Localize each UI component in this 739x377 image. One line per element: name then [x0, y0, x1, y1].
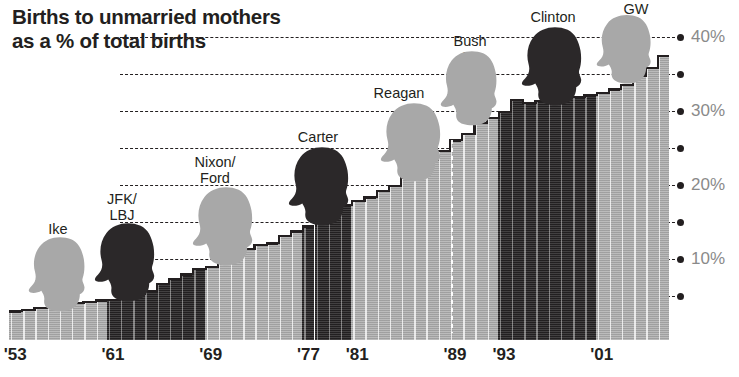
bar-1970 — [217, 261, 229, 340]
bar-2002 — [608, 88, 620, 340]
x-axis-label-1969: '69 — [199, 345, 222, 365]
x-axis-label-1989: '89 — [444, 345, 467, 365]
tick-dot-5 — [677, 293, 684, 300]
bar-separator — [194, 268, 195, 340]
x-axis-label-1977: '77 — [297, 345, 320, 365]
tick-dot-10 — [677, 256, 684, 263]
bar-1985 — [400, 177, 412, 340]
bar-2001 — [596, 92, 608, 340]
bar-separator — [488, 117, 489, 340]
tick-dot-25 — [677, 145, 684, 152]
y-axis-label-20: 20% — [691, 175, 725, 195]
bar-separator — [11, 310, 12, 340]
tick-dot-40 — [677, 34, 684, 41]
bar-separator — [475, 122, 476, 340]
bar-separator — [610, 88, 611, 340]
bar-1979 — [327, 213, 339, 340]
tick-dot-20 — [677, 182, 684, 189]
bar-separator — [207, 266, 208, 340]
bar-separator — [353, 200, 354, 340]
bar-2006 — [657, 55, 669, 340]
bar-separator — [585, 94, 586, 340]
bar-separator — [280, 235, 281, 340]
bar-2005 — [644, 67, 656, 340]
bar-separator — [268, 242, 269, 340]
step-riser — [657, 55, 659, 69]
bar-separator — [634, 75, 635, 340]
bar-1987 — [424, 159, 436, 340]
president-silhouette-icon-carter — [287, 146, 353, 228]
bar-1967 — [180, 273, 192, 340]
step-riser — [168, 278, 170, 285]
bar-2003 — [620, 84, 632, 340]
step-riser — [608, 88, 610, 94]
step-riser — [461, 133, 463, 142]
step-riser — [596, 92, 598, 96]
bar-separator — [365, 196, 366, 340]
president-label-carter: Carter — [298, 130, 338, 146]
president-label-jfk-lbj: JFK/ LBJ — [107, 192, 137, 223]
bar-separator — [292, 230, 293, 340]
bar-separator — [561, 97, 562, 340]
bar-1990 — [461, 133, 473, 340]
president-silhouette-icon-jfk-lbj — [93, 222, 159, 304]
bar-1998 — [559, 97, 571, 340]
bar-separator — [402, 177, 403, 340]
president-silhouette-icon-ike — [27, 236, 89, 314]
president-label-reagan: Reagan — [374, 86, 425, 102]
bar-1977 — [302, 225, 314, 340]
bar-1992 — [486, 117, 498, 340]
president-silhouette-icon-nixon-ford — [191, 186, 257, 268]
step-riser — [290, 230, 292, 236]
bar-separator — [182, 273, 183, 340]
bar-separator — [390, 185, 391, 340]
bar-1968 — [192, 268, 204, 340]
step-riser — [278, 235, 280, 244]
bar-1995 — [522, 102, 534, 340]
step-riser — [510, 99, 512, 113]
chart-container: Births to unmarried mothers as a % of to… — [0, 0, 739, 377]
x-axis-label-1993: '93 — [492, 345, 515, 365]
bar-separator — [97, 299, 98, 340]
step-riser — [192, 268, 194, 275]
bar-separator — [659, 55, 660, 340]
bar-separator — [304, 225, 305, 340]
bar-separator — [414, 167, 415, 340]
y-axis-label-30: 30% — [691, 101, 725, 121]
bar-top-outline — [9, 310, 21, 312]
bar-1961 — [107, 299, 119, 340]
step-riser — [376, 190, 378, 199]
bar-separator — [378, 190, 379, 340]
bar-1960 — [95, 299, 107, 340]
bar-1983 — [376, 190, 388, 340]
x-axis-label-1961: '61 — [101, 345, 124, 365]
bar-separator — [329, 213, 330, 340]
step-riser — [388, 185, 390, 192]
bar-1953 — [9, 310, 21, 340]
bar-1996 — [534, 100, 546, 340]
bar-1994 — [510, 99, 522, 340]
bar-1975 — [278, 235, 290, 340]
bar-1986 — [412, 167, 424, 340]
bar-separator — [219, 261, 220, 340]
bar-1991 — [473, 122, 485, 340]
x-axis-label-2001: '01 — [590, 345, 613, 365]
bar-separator — [573, 96, 574, 340]
president-silhouette-icon-gw — [595, 14, 655, 86]
bar-1993 — [498, 111, 510, 340]
bar-1976 — [290, 230, 302, 340]
bar-separator — [512, 99, 513, 340]
x-axis-label-1981: '81 — [346, 345, 369, 365]
bar-separator — [524, 102, 525, 340]
president-silhouette-icon-bush-sr — [439, 50, 501, 128]
president-label-clinton: Clinton — [530, 10, 575, 26]
bar-1971 — [229, 256, 241, 340]
bar-separator — [426, 159, 427, 340]
bar-1997 — [547, 100, 559, 340]
bar-separator — [646, 67, 647, 340]
bar-separator — [536, 100, 537, 340]
step-riser — [266, 242, 268, 245]
step-riser — [363, 196, 365, 202]
step-riser — [21, 309, 23, 312]
bar-separator — [500, 111, 501, 340]
